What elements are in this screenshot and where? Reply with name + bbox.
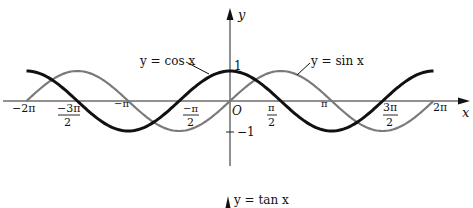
x-tick-label-neg-three-pi-over-two: −3π 2 [57, 102, 80, 129]
svg-text:2: 2 [64, 116, 71, 129]
x-tick-label-two-pi: 2π [433, 101, 447, 114]
y-axis-arrow-icon [227, 8, 234, 20]
x-tick-label-pi-over-two: π 2 [267, 102, 277, 129]
sin-leader-line [297, 63, 310, 75]
x-tick-label-three-pi-over-two: 3π 2 [383, 101, 398, 129]
x-axis-arrow-icon [458, 98, 470, 105]
svg-text:−3π: −3π [57, 102, 80, 115]
svg-text:2: 2 [187, 116, 194, 129]
x-tick-label-neg-pi: −π [114, 98, 129, 109]
y-tick-label-one: 1 [234, 59, 242, 73]
svg-text:2: 2 [386, 116, 393, 129]
tan-y-axis-arrow-icon [226, 196, 231, 208]
svg-text:π: π [268, 102, 275, 113]
y-tick-label-neg-one: −1 [237, 125, 255, 139]
origin-label: O [232, 104, 242, 118]
tan-annotation: y = tan x [233, 193, 289, 207]
svg-text:3π: 3π [383, 101, 397, 114]
cos-annotation: y = cos x [139, 54, 195, 68]
svg-text:−π: −π [183, 103, 198, 114]
x-axis-label: x [462, 105, 470, 120]
x-tick-label-neg-pi-over-two: −π 2 [183, 103, 199, 129]
x-tick-label-neg-two-pi: −2π [12, 102, 35, 115]
x-tick-label-pi: π [321, 98, 328, 109]
svg-text:2: 2 [268, 116, 275, 129]
sin-annotation: y = sin x [310, 54, 364, 68]
trig-graphs: y x 1 −1 O y = cos x y = sin x −2π −3π 2… [0, 0, 473, 208]
y-axis-label: y [237, 7, 246, 22]
